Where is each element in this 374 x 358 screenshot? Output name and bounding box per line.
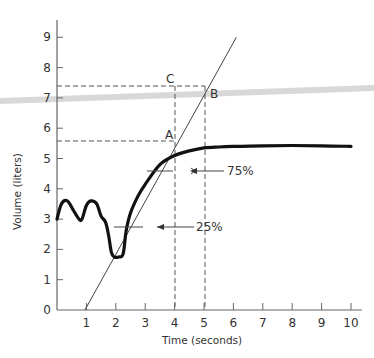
label-point-b: B <box>210 87 218 101</box>
marker-75 <box>147 168 224 174</box>
gray-band <box>0 88 374 101</box>
label-point-c: C <box>166 72 174 86</box>
x-tick-label: 3 <box>141 316 149 330</box>
y-tick-label: 7 <box>43 91 51 105</box>
x-tick-label: 6 <box>230 316 238 330</box>
y-tick-label: 3 <box>43 212 51 226</box>
y-tick-label: 0 <box>43 303 51 317</box>
volume-curve <box>57 146 351 258</box>
x-axis-title: Time (seconds) <box>161 334 242 346</box>
x-tick-label: 4 <box>171 316 179 330</box>
x-tick-label: 5 <box>200 316 208 330</box>
label-point-a: A <box>165 128 174 142</box>
label-75-percent: 75% <box>227 164 254 178</box>
x-tick-label: 10 <box>343 316 358 330</box>
x-tick-labels: 12345678910 <box>83 316 359 330</box>
tangent-line <box>85 37 236 310</box>
x-tick-label: 7 <box>259 316 267 330</box>
x-tick-label: 2 <box>112 316 120 330</box>
y-tick-label: 5 <box>43 152 51 166</box>
x-tick-label: 9 <box>318 316 326 330</box>
y-tick-label: 2 <box>43 242 51 256</box>
y-tick-label: 1 <box>43 273 51 287</box>
y-tick-label: 6 <box>43 121 51 135</box>
volume-time-chart: 0123456789 12345678910 75% 25% C A B Vol… <box>0 0 374 358</box>
y-tick-label: 4 <box>43 182 51 196</box>
y-tick-labels: 0123456789 <box>43 30 51 317</box>
x-ticks <box>86 303 351 310</box>
x-tick-label: 8 <box>288 316 296 330</box>
y-axis-title: Volume (liters) <box>11 153 23 230</box>
label-25-percent: 25% <box>196 220 223 234</box>
y-tick-label: 9 <box>43 30 51 44</box>
y-ticks <box>57 37 63 279</box>
x-tick-label: 1 <box>83 316 91 330</box>
reference-lines <box>57 86 205 310</box>
y-tick-label: 8 <box>43 61 51 75</box>
